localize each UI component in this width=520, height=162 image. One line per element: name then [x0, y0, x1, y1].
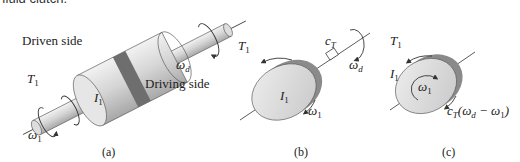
driving-side-label: Driving side	[145, 76, 210, 92]
clutch-diagram	[0, 0, 520, 162]
panel-a-drawing	[10, 0, 258, 159]
inertia-label-c: I1	[390, 66, 399, 83]
inertia-label-a: I1	[94, 90, 103, 107]
damper-label-b: cT	[325, 33, 336, 50]
omegad-label-b: ωd	[349, 57, 363, 74]
omega1-label-a: ω1	[28, 127, 42, 144]
omegad-label-a: ωd	[176, 57, 190, 74]
inertia-label-b: I1	[280, 88, 289, 105]
torque-label-c: T1	[390, 33, 402, 50]
panel-b-drawing	[240, 29, 370, 131]
panel-a-caption: (a)	[102, 145, 115, 160]
omega1-label-b: ω1	[308, 103, 322, 120]
damping-torque-label-c: cT(ωd − ω1)	[447, 103, 509, 120]
omega1-label-c: ω1	[418, 79, 432, 96]
panel-c-caption: (c)	[442, 145, 455, 160]
torque-label-b: T1	[238, 38, 250, 55]
driven-side-label: Driven side	[22, 33, 82, 49]
panel-b-caption: (b)	[294, 145, 308, 160]
torque-label-a: T1	[27, 71, 39, 88]
